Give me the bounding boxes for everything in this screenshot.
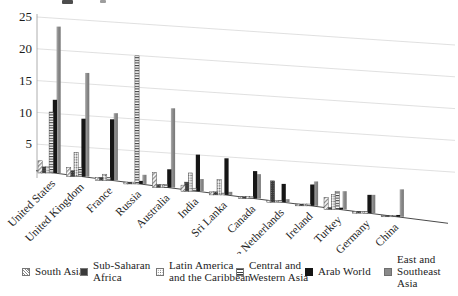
bar-united-states-diagonal-hatch [38,161,42,173]
bar-the-netherlands-dark-dotted [271,181,275,202]
legend-marker-east-southeast-asia-gray-icon [384,268,392,276]
bar-france-solid-black [110,119,114,180]
legend-label: Sub-Saharan Africa [93,260,150,284]
bar-france-solid-gray [114,113,118,180]
bar-united-states-horizontal-stripes [49,112,53,173]
bar-canada-solid-gray [257,174,261,198]
bar-the-netherlands-diagonal-hatch [267,200,271,202]
bar-china-diagonal-hatch [381,216,385,217]
bar-russia-diagonal-hatch [124,182,128,184]
bar-chart-figure: 510152025United StatesUnited KingdomFran… [0,0,458,296]
bar-france-diagonal-hatch [95,177,99,180]
bar-australia-solid-gray [171,108,175,187]
gridline-25 [37,17,455,45]
bar-australia-diagonal-hatch [152,172,156,187]
x-category-label: China [373,221,401,249]
legend-marker-arab-world-black-icon [305,268,313,276]
bar-the-netherlands-solid-black [282,184,286,202]
bar-germany-solid-black [367,195,371,213]
gridlines [37,17,455,172]
gridline-20 [37,49,455,77]
legend-item-arab-world: Arab World [305,254,371,290]
bar-canada-diagonal-hatch [238,197,242,199]
x-category-label: Ireland [283,210,315,242]
bar-germany-diagonal-hatch [353,211,357,213]
gridline-5 [37,144,455,172]
bar-ireland-diagonal-hatch [295,204,299,206]
bar-sri-lanka-solid-black [224,158,228,195]
legend-item-east-southeast-asia: East and Southeast Asia [384,254,458,290]
legend-item-south-asia: South Asia [22,254,84,290]
bar-the-netherlands-solid-gray [285,199,289,202]
bar-india-solid-black [196,155,200,192]
legend-label: Arab World [318,266,371,278]
bar-russia-solid-gray [142,175,146,184]
legend-marker-south-asia-hatch-icon [22,268,30,276]
legend-marker-central-western-asia-stripes-icon [236,268,244,276]
legend-label: South Asia [35,266,84,278]
bar-india-diagonal-hatch [181,185,185,191]
bar-united-kingdom-solid-gray [85,73,89,177]
bar-sri-lanka-diagonal-hatch [210,192,214,195]
gridline-10 [37,112,455,140]
x-category-label: Russia [113,188,143,218]
bar-russia-horizontal-stripes [135,56,139,184]
bar-united-kingdom-diagonal-hatch [67,168,71,177]
y-tick-label-5: 5 [26,136,33,151]
bar-ireland-solid-black [310,185,314,206]
legend-item-sub-saharan-africa: Sub-Saharan Africa [80,254,150,290]
bar-canada-solid-black [253,171,257,198]
y-tick-label-10: 10 [19,105,32,120]
bar-india-solid-gray [200,179,204,191]
y-tick-label-20: 20 [19,41,32,56]
legend-item-central-western-asia: Central and Western Asia [236,254,308,290]
x-category-label: France [84,184,115,215]
bar-china-solid-gray [400,189,404,216]
y-tick-label-25: 25 [19,9,32,24]
bar-turkey-solid-gray [343,191,347,209]
gridline-15 [37,81,455,109]
bar-chart: 510152025United StatesUnited KingdomFran… [0,0,458,254]
legend-label: East and Southeast Asia [397,254,458,290]
bar-united-states-solid-gray [57,27,61,173]
x-category-label: United Kingdom [23,181,87,245]
y-tick-label-15: 15 [19,73,32,88]
bar-turkey-diagonal-hatch [324,197,328,209]
x-category-label: India [175,195,200,220]
bar-germany-solid-gray [371,195,375,213]
chart-legend: South Asia Sub-Saharan Africa Latin Amer… [0,254,458,294]
legend-marker-latin-america-dotted-icon [156,268,164,276]
legend-label: Central and Western Asia [249,260,308,284]
bar-turkey-light-dotted [331,194,335,209]
bars [38,27,404,217]
axis-labels: 510152025United StatesUnited KingdomFran… [5,9,400,254]
bar-sri-lanka-solid-gray [228,192,232,195]
bar-ireland-solid-gray [314,181,318,205]
legend-marker-sub-saharan-africa-dotted-icon [80,268,88,276]
